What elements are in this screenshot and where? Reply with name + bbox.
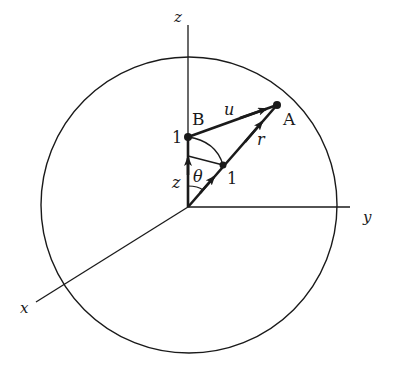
sphere-diagram: z y x A B 1 1 u r z θ: [0, 0, 397, 379]
unit-chord: [188, 156, 223, 165]
z-axis-label: z: [173, 8, 182, 26]
y-axis-label: y: [362, 208, 372, 226]
point-B: [184, 133, 192, 141]
theta-label: θ: [193, 167, 203, 186]
x-axis: [36, 207, 188, 302]
x-axis-label: x: [20, 299, 29, 317]
theta-arc: [188, 186, 203, 190]
point-A-label: A: [282, 109, 296, 129]
point-r-unit-label: 1: [227, 169, 237, 188]
point-A: [273, 101, 281, 109]
point-B-label: B: [192, 109, 205, 129]
vector-z-label: z: [171, 173, 181, 192]
vector-r-label: r: [257, 130, 266, 149]
vector-u-label: u: [224, 100, 234, 119]
point-B-unit-label: 1: [172, 128, 182, 147]
point-unit-r: [220, 162, 227, 169]
vector-u-arrow: [240, 109, 266, 118]
